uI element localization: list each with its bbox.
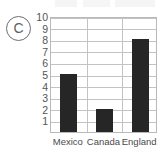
- y-tick-7: 7: [42, 47, 48, 57]
- gridline-vertical: [122, 18, 123, 132]
- y-tick-4: 4: [42, 82, 48, 92]
- y-tick-6: 6: [42, 58, 48, 68]
- bar-mexico: [60, 74, 77, 132]
- cropped-header-artifact: [55, 0, 155, 7]
- gridline-vertical: [87, 18, 88, 132]
- y-tick-8: 8: [42, 35, 48, 45]
- figure-part-marker: C: [6, 16, 31, 41]
- gridline-horizontal: [51, 18, 156, 19]
- gridline-horizontal: [51, 29, 156, 30]
- y-tick-3: 3: [42, 93, 48, 103]
- x-label-canada: Canada: [86, 135, 122, 151]
- y-tick-9: 9: [42, 24, 48, 34]
- x-label-england: England: [121, 135, 157, 151]
- y-tick-5: 5: [42, 70, 48, 80]
- bar-england: [132, 39, 149, 132]
- y-tick-2: 2: [42, 105, 48, 115]
- y-axis-tick-labels: 10987654321: [30, 11, 48, 133]
- x-label-mexico: Mexico: [50, 135, 86, 151]
- x-axis-category-labels: MexicoCanadaEngland: [50, 135, 157, 151]
- bar-canada: [96, 109, 113, 132]
- bar-chart-plot-area: [50, 17, 157, 133]
- y-tick-1: 1: [42, 116, 48, 126]
- y-tick-10: 10: [36, 12, 48, 22]
